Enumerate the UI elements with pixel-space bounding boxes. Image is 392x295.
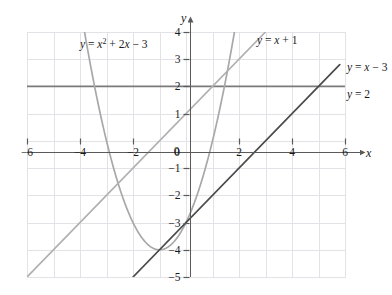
x-tick-label: −6 — [21, 146, 33, 158]
x-tick-label: 2 — [236, 146, 242, 158]
x-tick-label: −4 — [74, 146, 86, 158]
y-tick-label: 0 — [174, 145, 180, 157]
x-tick-label: −2 — [127, 146, 139, 158]
y-tick-label: 4 — [175, 26, 181, 38]
x-axis-name: x — [365, 146, 372, 160]
y-tick-label: −1 — [168, 162, 180, 174]
y-tick-label: −5 — [168, 271, 180, 283]
y-tick-label: −4 — [168, 244, 180, 256]
line-x-plus-1-label: y = x + 1 — [256, 34, 298, 47]
graph-figure: −6−4−20246 43210−1−2−3−4−5 x y y = x2 + … — [0, 0, 392, 295]
y-axis-name: y — [180, 11, 187, 25]
parabola-label: y = x2 + 2x − 3 — [79, 37, 148, 52]
top-edge-artifact — [6, 0, 126, 5]
x-tick-label: 6 — [342, 146, 348, 158]
y-tick-label: 1 — [175, 108, 181, 120]
y-tick-label: −2 — [168, 189, 180, 201]
y-tick-label: 3 — [175, 53, 181, 65]
y-tick-label: 2 — [175, 80, 181, 92]
x-tick-label: 4 — [289, 146, 295, 158]
coordinate-plane: −6−4−20246 43210−1−2−3−4−5 x y y = x2 + … — [0, 0, 392, 295]
line-x-minus-3-label: y = x − 3 — [346, 61, 388, 74]
line-y-equals-2-label: y = 2 — [346, 88, 370, 101]
y-tick-label: −3 — [168, 217, 180, 229]
